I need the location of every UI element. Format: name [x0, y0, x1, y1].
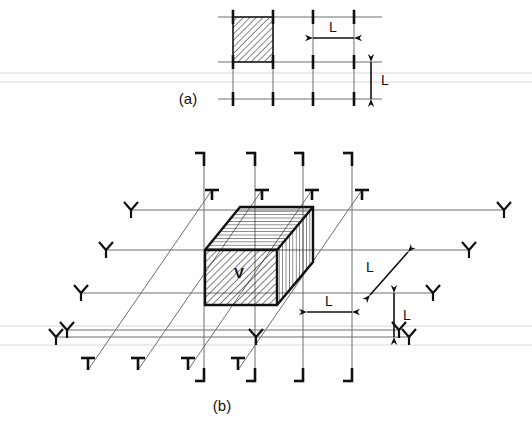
panel-b-dim-vertical-label: L	[403, 307, 411, 323]
panel-a-caption: (a)	[179, 90, 197, 107]
panel-a-dim-vertical-label: L	[381, 72, 389, 88]
panel-b-volume-label: V	[234, 264, 244, 281]
panel-b-dim-horizontal-label: L	[325, 293, 333, 309]
panel-b-dim-diagonal-label: L	[366, 259, 374, 275]
figure-root: L L (a)	[0, 0, 532, 426]
panel-a-dim-horizontal-label: L	[329, 19, 337, 35]
technical-figure: L L (a)	[0, 0, 532, 426]
panel-b-caption: (b)	[213, 397, 231, 414]
panel-a-hatched-cell	[233, 17, 273, 62]
